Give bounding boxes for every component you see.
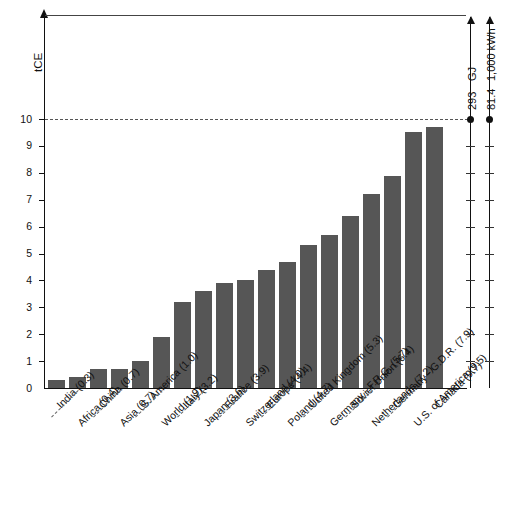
gigajoule-scale-unit: GJ xyxy=(466,67,478,81)
y-tick-label-1: 1 xyxy=(10,356,32,366)
gigajoule-scale-arrow xyxy=(467,16,475,24)
kilowatt-hour-scale-tick xyxy=(485,173,494,174)
gigajoule-scale-tick xyxy=(466,227,475,228)
y-tick-1 xyxy=(39,361,45,362)
y-tick-4 xyxy=(39,280,45,281)
kilowatt-hour-scale-tick xyxy=(485,334,494,335)
gigajoule-scale-tick xyxy=(466,334,475,335)
y-tick-7 xyxy=(39,200,45,201)
gigajoule-scale-tick xyxy=(466,307,475,308)
y-tick-label-4: 4 xyxy=(10,275,32,285)
x-axis-category-labels: India (0.3)Africa (0.4)China (0.7)Asia (… xyxy=(0,388,511,522)
bar-canada xyxy=(426,127,443,388)
plot-area xyxy=(46,14,466,388)
gigajoule-scale-tick xyxy=(466,200,475,201)
kilowatt-hour-scale-tick xyxy=(485,280,494,281)
kilowatt-hour-scale-tick xyxy=(485,361,494,362)
gigajoule-scale-tick xyxy=(466,280,475,281)
y-tick-8 xyxy=(39,173,45,174)
y-tick-label-10: 10 xyxy=(10,114,32,124)
energy-per-capita-bar-chart: tCE 012345678910 India (0.3)Africa (0.4)… xyxy=(0,0,511,522)
y-tick-2 xyxy=(39,334,45,335)
kilowatt-hour-scale-value: 81.4 xyxy=(485,89,497,110)
y-tick-label-9: 9 xyxy=(10,140,32,150)
bar-series xyxy=(46,14,466,388)
kilowatt-hour-scale-unit: 1,000 kWh xyxy=(485,28,497,81)
kilowatt-hour-scale-tick xyxy=(485,254,494,255)
bar-india xyxy=(48,380,65,388)
y-axis-line xyxy=(44,14,45,389)
y-axis-title: tCE xyxy=(32,53,44,72)
gigajoule-scale-tick xyxy=(466,254,475,255)
y-tick-9 xyxy=(39,146,45,147)
kilowatt-hour-scale-tick xyxy=(485,146,494,147)
y-tick-label-8: 8 xyxy=(10,167,32,177)
y-tick-label-7: 7 xyxy=(10,194,32,204)
gigajoule-scale-tick xyxy=(466,173,475,174)
kilowatt-hour-scale-tick xyxy=(485,200,494,201)
gigajoule-scale-tick xyxy=(466,361,475,362)
kilowatt-hour-scale-level-marker xyxy=(486,116,493,123)
gigajoule-scale-level-marker xyxy=(467,116,474,123)
y-tick-5 xyxy=(39,254,45,255)
y-tick-label-3: 3 xyxy=(10,302,32,312)
y-tick-6 xyxy=(39,227,45,228)
gigajoule-scale-value: 293 xyxy=(466,92,478,110)
kilowatt-hour-scale-tick xyxy=(485,227,494,228)
kilowatt-hour-scale-arrow xyxy=(486,16,494,24)
gigajoule-scale-tick xyxy=(466,146,475,147)
y-tick-3 xyxy=(39,307,45,308)
kilowatt-hour-scale-tick xyxy=(485,307,494,308)
bar-france xyxy=(216,283,233,388)
y-tick-label-5: 5 xyxy=(10,248,32,258)
y-tick-label-2: 2 xyxy=(10,329,32,339)
y-tick-label-6: 6 xyxy=(10,221,32,231)
bar-germany-f-r-g xyxy=(321,235,338,388)
